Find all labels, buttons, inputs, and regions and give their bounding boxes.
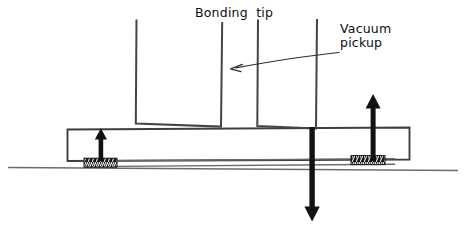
- solder-pad-right: [351, 156, 385, 165]
- label-bonding-tip: Bonding tip: [195, 6, 273, 20]
- leader-line-curve: [236, 53, 339, 68]
- vacuum-pickup-outline: [257, 19, 317, 128]
- bonding-tip-outline: [136, 20, 222, 127]
- label-vacuum-pickup-line1: Vacuum: [340, 21, 391, 36]
- arrow-lift-right-head: [366, 94, 381, 108]
- arrow-vacuum-down-shaft: [309, 127, 314, 211]
- diagram-canvas: [0, 0, 466, 234]
- label-vacuum-pickup-line2: pickup: [340, 35, 382, 50]
- arrow-lift-left-shaft: [99, 136, 104, 161]
- leader-line-vacuum-pickup: [231, 53, 339, 72]
- bonding-tip-tool: [136, 20, 222, 127]
- figure-bonding-tip-vacuum-pickup: Bonding tip Vacuumpickup: [0, 0, 466, 234]
- arrow-vacuum-down-head: [304, 207, 319, 222]
- arrow-lift-right-shaft: [371, 104, 376, 161]
- board-substrate: [8, 168, 458, 171]
- label-vacuum-pickup: Vacuumpickup: [340, 22, 391, 50]
- board-surface-line: [8, 168, 458, 171]
- component-lead-plane-line: [84, 164, 395, 166]
- vacuum-pickup-tool: [257, 19, 317, 128]
